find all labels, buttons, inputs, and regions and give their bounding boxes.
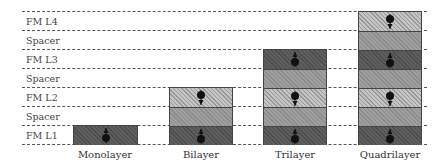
fm-layer-l2 bbox=[170, 88, 232, 107]
column-label-trilayer: Trilayer bbox=[245, 149, 345, 160]
row-label-fm-l4: FM L4 bbox=[26, 12, 58, 31]
row-label-spacer-3: Spacer bbox=[26, 31, 60, 50]
row-label-fm-l1: FM L1 bbox=[26, 126, 58, 145]
column-label-bilayer: Bilayer bbox=[151, 149, 251, 160]
spacer-layer bbox=[264, 69, 326, 88]
spin-down-icon bbox=[195, 89, 207, 106]
fm-layer-l2 bbox=[264, 88, 326, 107]
trilayer-stack bbox=[263, 49, 327, 145]
fm-layer-l4 bbox=[359, 12, 421, 31]
spin-up-icon bbox=[384, 128, 396, 145]
spin-up-icon bbox=[100, 127, 112, 144]
spin-up-icon bbox=[289, 128, 301, 145]
fm-layer-l1 bbox=[264, 126, 326, 145]
fm-layer-l1 bbox=[170, 126, 232, 145]
spin-down-icon bbox=[384, 90, 396, 107]
spacer-layer bbox=[170, 107, 232, 126]
spin-up-icon bbox=[384, 52, 396, 69]
spacer-layer bbox=[359, 31, 421, 50]
fm-layer-l2 bbox=[359, 88, 421, 107]
column-label-monolayer: Monolayer bbox=[55, 149, 155, 160]
bilayer-stack bbox=[169, 87, 233, 145]
spin-down-icon bbox=[289, 90, 301, 107]
spacer-layer bbox=[264, 107, 326, 126]
spin-down-icon bbox=[384, 13, 396, 30]
monolayer-stack bbox=[73, 125, 138, 145]
row-label-spacer-2: Spacer bbox=[26, 69, 60, 88]
row-label-fm-l3: FM L3 bbox=[26, 50, 58, 69]
row-label-fm-l2: FM L2 bbox=[26, 88, 58, 107]
column-label-quadrilayer: Quadrilayer bbox=[340, 149, 440, 160]
quadrilayer-stack bbox=[358, 11, 422, 145]
row-label-spacer-1: Spacer bbox=[26, 107, 60, 126]
fm-layer-l1 bbox=[74, 126, 137, 145]
spacer-layer bbox=[359, 107, 421, 126]
fm-layer-l3 bbox=[359, 50, 421, 69]
fm-layer-l1 bbox=[359, 126, 421, 145]
spin-up-icon bbox=[289, 51, 301, 68]
spin-up-icon bbox=[195, 128, 207, 145]
fm-layer-l3 bbox=[264, 50, 326, 69]
spacer-layer bbox=[359, 69, 421, 88]
